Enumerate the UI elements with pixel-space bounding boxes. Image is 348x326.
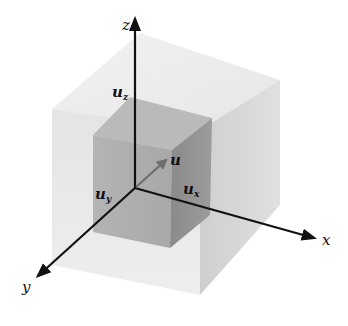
vector-diagram: z x y u uz uy ux — [0, 0, 348, 326]
z-axis-label: z — [121, 16, 130, 34]
vector-u-label: u — [170, 151, 181, 169]
x-axis-label: x — [322, 231, 331, 249]
y-axis-label: y — [21, 278, 31, 296]
